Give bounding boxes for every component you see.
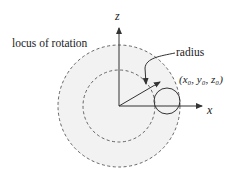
x-axis-label: x	[207, 104, 212, 116]
rotation-diagram	[0, 0, 235, 176]
z-axis-label: z	[115, 10, 120, 22]
radius-label: radius	[176, 47, 204, 59]
point-label: (x₀, y₀, z₀)	[179, 74, 223, 85]
locus-label: locus of rotation	[12, 38, 87, 50]
